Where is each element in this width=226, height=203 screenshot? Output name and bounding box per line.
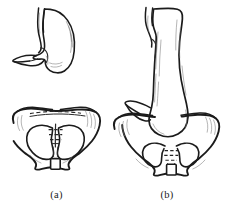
stomach-normal (13, 8, 75, 73)
stomach-gastroptosis (125, 8, 188, 137)
panel-b-drawing (108, 0, 226, 203)
pelvis-normal (13, 107, 100, 170)
figure-gastroptosis-comparison: (a) (0, 0, 226, 203)
panel-b: (b) (108, 0, 226, 203)
panel-a-caption: (a) (0, 190, 113, 201)
panel-a-drawing (0, 0, 113, 203)
panel-a: (a) (0, 0, 113, 203)
panel-b-caption: (b) (108, 190, 226, 201)
